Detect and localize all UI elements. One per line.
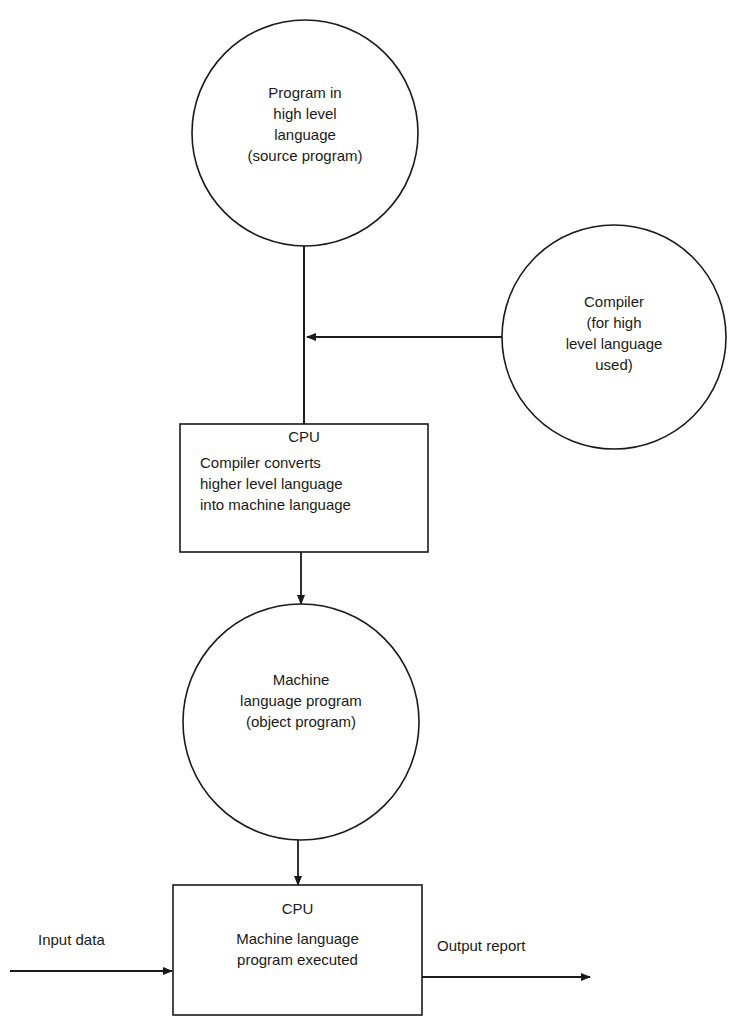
source-program-line-1: Program in xyxy=(215,82,395,103)
compiler-text: Compiler (for high level language used) xyxy=(530,291,698,375)
input-data-label: Input data xyxy=(38,931,105,948)
compiler-line-3: level language xyxy=(530,333,698,354)
source-program-text: Program in high level language (source p… xyxy=(215,82,395,166)
object-program-line-2: language program xyxy=(211,690,391,711)
output-report-label: Output report xyxy=(437,937,525,954)
cpu-compile-line-1: Compiler converts xyxy=(180,452,428,473)
cpu-execute-line-2: program executed xyxy=(173,949,422,970)
object-program-line-3: (object program) xyxy=(211,711,391,732)
compiler-line-2: (for high xyxy=(530,312,698,333)
source-program-line-2: high level xyxy=(215,103,395,124)
cpu-compile-line-3: into machine language xyxy=(180,494,428,515)
object-program-text: Machine language program (object program… xyxy=(211,669,391,732)
source-program-line-4: (source program) xyxy=(215,145,395,166)
compiler-line-1: Compiler xyxy=(530,291,698,312)
object-program-line-1: Machine xyxy=(211,669,391,690)
cpu-execute-title: CPU xyxy=(173,898,422,919)
cpu-compile-line-2: higher level language xyxy=(180,473,428,494)
source-program-line-3: language xyxy=(215,124,395,145)
cpu-execute-line-1: Machine language xyxy=(173,928,422,949)
cpu-compile-text: CPU Compiler converts higher level langu… xyxy=(180,426,428,515)
cpu-compile-title: CPU xyxy=(180,426,428,447)
compiler-line-4: used) xyxy=(530,354,698,375)
cpu-execute-text: CPU Machine language program executed xyxy=(173,898,422,970)
